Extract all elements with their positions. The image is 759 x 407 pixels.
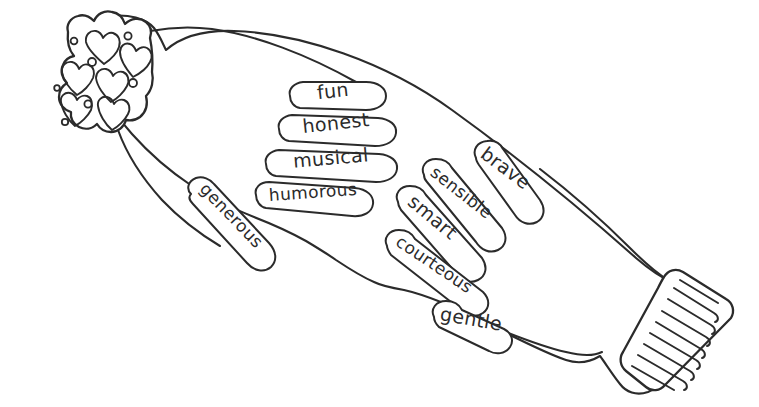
left-cuff-shape bbox=[59, 11, 153, 132]
word-label-fun: fun bbox=[316, 78, 350, 103]
coloring-page-canvas: fun honest musical humorous generous bra… bbox=[0, 0, 759, 407]
mittens-line-drawing: fun honest musical humorous generous bra… bbox=[0, 0, 759, 407]
